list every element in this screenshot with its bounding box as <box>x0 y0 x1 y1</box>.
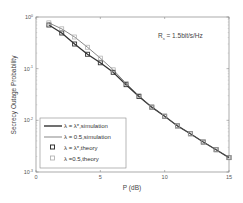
legend-item-2: λ = 0.5,simulation <box>64 134 111 140</box>
y-tick-label: 100 <box>25 14 33 21</box>
y-tick-label: 10-3 <box>24 169 33 176</box>
legend: λ = λ*,simulation λ = 0.5,simulation λ =… <box>40 118 126 168</box>
y-tick-label: 10-1 <box>24 65 33 72</box>
y-tick-label: 10-2 <box>24 117 33 124</box>
y-axis-label: Secrecy Outage Probability <box>10 55 18 135</box>
legend-item-4: λ =0.5,theory <box>64 156 99 162</box>
x-tick-label: 0 <box>34 174 37 180</box>
secrecy-outage-chart: 05101510010-110-210-3 P (dB) Secrecy Out… <box>0 0 243 203</box>
legend-item-3: λ = λ*,theory <box>64 145 98 151</box>
x-tick-label: 15 <box>226 174 232 180</box>
x-tick-label: 5 <box>99 174 102 180</box>
x-tick-label: 10 <box>162 174 168 180</box>
x-axis-label: P (dB) <box>123 184 141 192</box>
legend-item-1: λ = λ*,simulation <box>64 123 108 129</box>
